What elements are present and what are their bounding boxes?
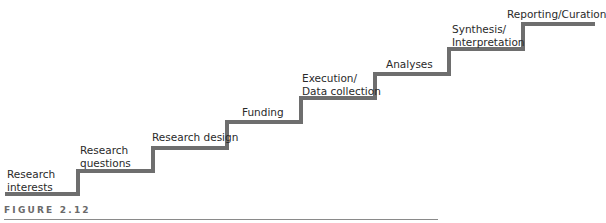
- step-label-reporting-curation: Reporting/Curation: [507, 8, 606, 21]
- step-label-research-interests: Research interests: [7, 168, 55, 194]
- step-label-synthesis-interpretation: Synthesis/ Interpretation: [452, 23, 525, 49]
- step-label-research-design: Research design: [152, 131, 238, 144]
- step-label-analyses: Analyses: [386, 58, 433, 71]
- step-label-execution-data-collection: Execution/ Data collection: [302, 72, 381, 98]
- caption-divider: [4, 219, 438, 220]
- step-label-funding: Funding: [242, 106, 284, 119]
- figure-caption: FIGURE 2.12: [4, 205, 91, 215]
- step-label-research-questions: Research questions: [80, 144, 131, 170]
